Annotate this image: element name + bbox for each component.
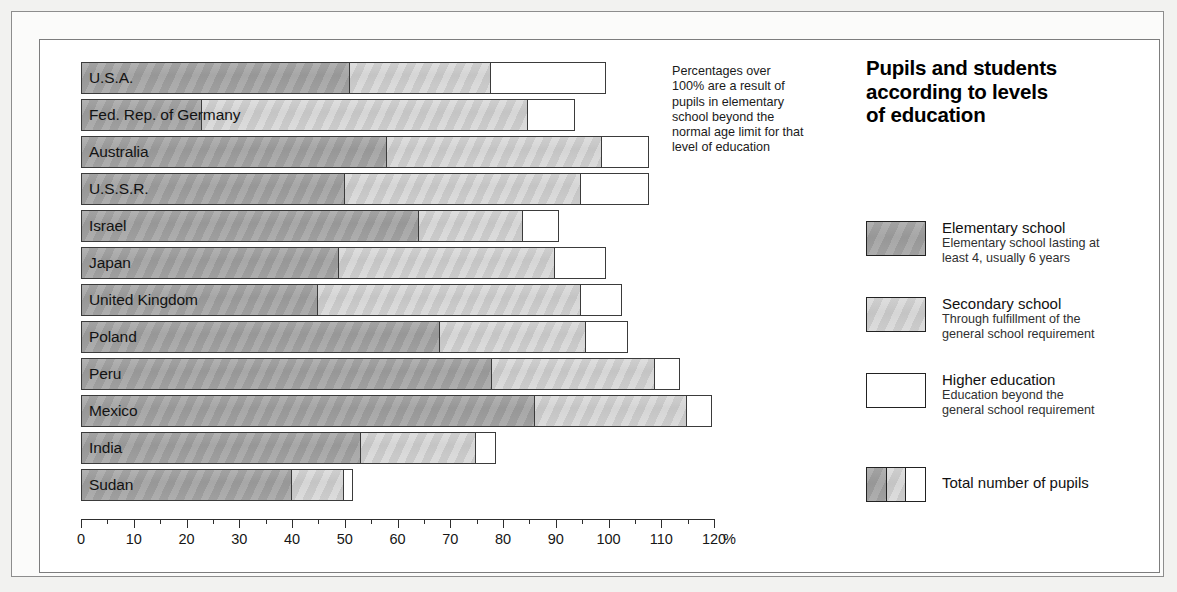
bar-segment-sec — [201, 99, 528, 131]
bar-row: Mexico — [81, 395, 712, 427]
note-line-3: pupils in elementary — [672, 95, 844, 110]
bar-segment-elem — [81, 99, 202, 131]
total-swatch-icon — [866, 467, 926, 502]
total-swatch-cell-elementary — [867, 468, 886, 501]
bar-segment-sec — [491, 358, 655, 390]
axis-tick-label: 30 — [231, 531, 247, 547]
legend-text-total: Total number of pupils — [942, 465, 1148, 491]
note-line-1: Percentages over — [672, 64, 844, 79]
axis-tick-major — [81, 519, 82, 528]
bar-segment-high — [490, 62, 606, 94]
axis-tick-minor — [688, 519, 689, 524]
axis-tick-minor — [529, 519, 530, 524]
axis-tick-major — [714, 519, 715, 528]
axis-tick-major — [187, 519, 188, 528]
legend-title-higher: Higher education — [942, 371, 1148, 388]
x-axis: % 0102030405060708090100110120 — [81, 519, 721, 557]
axis-tick-label: 60 — [389, 531, 405, 547]
legend-sub-higher: Education beyond the general school requ… — [942, 388, 1148, 418]
legend-text-elementary: Elementary school Elementary school last… — [942, 219, 1148, 266]
axis-tick-minor — [582, 519, 583, 524]
bar-segment-high — [601, 136, 648, 168]
axis-tick-label: 70 — [442, 531, 458, 547]
bar-segment-high — [686, 395, 712, 427]
bar-segment-sec — [534, 395, 687, 427]
axis-tick-minor — [424, 519, 425, 524]
axis-tick-major — [503, 519, 504, 528]
axis-tick-minor — [477, 519, 478, 524]
bar-row: Sudan — [81, 469, 353, 501]
axis-tick-label: 100 — [596, 531, 620, 547]
axis-tick-major — [661, 519, 662, 528]
bar-segment-elem — [81, 284, 318, 316]
chart-page: U.S.A.Fed. Rep. of GermanyAustraliaU.S.S… — [0, 0, 1177, 592]
axis-tick-label: 120 — [702, 531, 726, 547]
legend-item-secondary: Secondary school Through fulfillment of … — [866, 295, 1148, 342]
right-panel: Pupils and students according to levels … — [866, 56, 1146, 127]
note-line-4: school beyond the — [672, 110, 844, 125]
bar-segment-high — [475, 432, 496, 464]
elementary-swatch-icon — [866, 221, 926, 256]
axis-tick-major — [292, 519, 293, 528]
legend-sub-elementary-line-2: least 4, usually 6 years — [942, 251, 1148, 266]
bar-row: Peru — [81, 358, 680, 390]
axis-tick-major — [609, 519, 610, 528]
axis-tick-label: 110 — [650, 531, 673, 547]
axis-tick-label: 40 — [284, 531, 300, 547]
page-title-line-2: according to levels — [866, 80, 1146, 104]
legend-sub-higher-line-1: Education beyond the — [942, 388, 1148, 403]
axis-tick-label: 50 — [337, 531, 353, 547]
bar-row: Fed. Rep. of Germany — [81, 99, 575, 131]
bar-segment-elem — [81, 136, 387, 168]
page-title-line-1: Pupils and students — [866, 56, 1146, 80]
bar-segment-elem — [81, 432, 361, 464]
axis-tick-minor — [160, 519, 161, 524]
higher-swatch-icon — [866, 373, 926, 408]
bar-segment-sec — [317, 284, 581, 316]
axis-tick-minor — [107, 519, 108, 524]
bar-segment-sec — [349, 62, 491, 94]
note-line-5: normal age limit for that — [672, 125, 844, 140]
bar-segment-high — [585, 321, 627, 353]
bar-segment-sec — [386, 136, 602, 168]
secondary-swatch-icon — [866, 297, 926, 332]
bar-segment-elem — [81, 173, 345, 205]
axis-tick-minor — [213, 519, 214, 524]
axis-tick-label: 90 — [548, 531, 564, 547]
bar-segment-sec — [360, 432, 476, 464]
axis-tick-minor — [318, 519, 319, 524]
bar-segment-high — [343, 469, 354, 501]
legend-title-secondary: Secondary school — [942, 295, 1148, 312]
bar-segment-high — [580, 173, 649, 205]
bar-chart-plot: U.S.A.Fed. Rep. of GermanyAustraliaU.S.S… — [81, 62, 721, 507]
axis-tick-minor — [635, 519, 636, 524]
axis-tick-major — [398, 519, 399, 528]
note-line-2: 100% are a result of — [672, 79, 844, 94]
legend-sub-secondary-line-2: general school requirement — [942, 327, 1148, 342]
legend-sub-secondary-line-1: Through fulfillment of the — [942, 312, 1148, 327]
legend-text-higher: Higher education Education beyond the ge… — [942, 371, 1148, 418]
bar-segment-elem — [81, 247, 339, 279]
bar-segment-elem — [81, 62, 350, 94]
legend-item-higher: Higher education Education beyond the ge… — [866, 371, 1148, 418]
bar-segment-sec — [344, 173, 581, 205]
bar-row: U.S.A. — [81, 62, 606, 94]
bar-segment-sec — [439, 321, 587, 353]
bar-segment-sec — [291, 469, 344, 501]
bar-segment-elem — [81, 358, 492, 390]
legend-title-total: Total number of pupils — [942, 474, 1148, 491]
axis-tick-minor — [266, 519, 267, 524]
bar-segment-sec — [338, 247, 554, 279]
legend-title-elementary: Elementary school — [942, 219, 1148, 236]
page-title-line-3: of education — [866, 103, 1146, 127]
axis-tick-label: 0 — [77, 531, 85, 547]
axis-tick-major — [345, 519, 346, 528]
bar-row: Israel — [81, 210, 559, 242]
bar-segment-elem — [81, 469, 292, 501]
bar-segment-elem — [81, 210, 419, 242]
axis-tick-major — [239, 519, 240, 528]
legend-sub-higher-line-2: general school requirement — [942, 403, 1148, 418]
legend-text-secondary: Secondary school Through fulfillment of … — [942, 295, 1148, 342]
bar-segment-elem — [81, 395, 535, 427]
bar-row: Poland — [81, 321, 628, 353]
